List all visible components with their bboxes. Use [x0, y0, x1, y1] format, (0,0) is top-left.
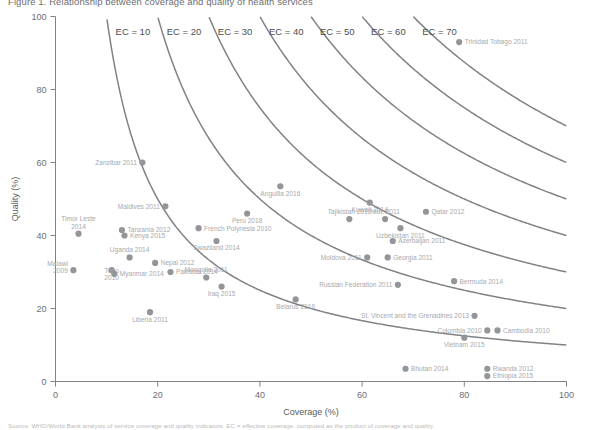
data-point-label: Myanmar 2014: [120, 270, 164, 278]
ec-curve-label-60: EC = 60: [371, 26, 406, 37]
data-point-label: Belarus 2016: [276, 303, 315, 310]
ec-curve-label-30: EC = 30: [218, 26, 253, 37]
y-tick-label: 40: [36, 231, 46, 241]
data-point-label: Bhutan 2014: [411, 365, 449, 372]
data-point-label: Swaziland 2014: [193, 244, 240, 251]
data-point[interactable]: [390, 238, 396, 244]
data-point[interactable]: [451, 278, 457, 284]
data-point[interactable]: [456, 39, 462, 45]
x-tick-label: 80: [459, 390, 469, 400]
ec-curve-label-40: EC = 40: [269, 26, 304, 37]
data-point-label: Georgia 2011: [393, 254, 433, 262]
data-point-label: Zanzibar 2011: [95, 159, 137, 166]
data-point-label: St. Vincent and the Grenadines 2013: [361, 312, 469, 319]
data-point[interactable]: [152, 260, 158, 266]
data-point[interactable]: [162, 203, 168, 209]
y-tick-label: 60: [36, 158, 46, 168]
ec-curve-label-20: EC = 20: [167, 26, 202, 37]
data-point-label: Anguilla 2016: [260, 190, 300, 198]
y-tick-label: 80: [36, 85, 46, 95]
data-point[interactable]: [382, 216, 388, 222]
axis-lines: [56, 17, 567, 382]
data-point-label: Cambodia 2010: [503, 327, 550, 334]
data-point-label: Qatar 2012: [431, 208, 464, 216]
y-tick-label: 0: [41, 377, 46, 387]
data-point[interactable]: [364, 254, 370, 260]
ec-curve-20: [158, 18, 566, 308]
data-point-label: Vietnam 2015: [444, 341, 485, 348]
data-point[interactable]: [277, 183, 283, 189]
data-point-label: Moldova 2011: [321, 254, 362, 261]
data-point-label: Niue 2011: [370, 208, 400, 215]
data-point-label: Tajikistan 2011: [328, 208, 371, 216]
data-point[interactable]: [111, 271, 117, 277]
data-point-label: Ethiopia 2015: [493, 372, 534, 380]
data-point[interactable]: [494, 327, 500, 333]
data-point-label: Colombia 2010: [437, 327, 482, 334]
data-point[interactable]: [484, 327, 490, 333]
data-point-label: French Polynesia 2010: [204, 225, 272, 233]
data-point-label: Timor Leste2014: [61, 215, 96, 230]
scatter-plot: 020406080100020406080100Coverage (%)Qual…: [0, 0, 591, 430]
data-point-label: Peru 2018: [232, 217, 263, 224]
y-tick-label: 20: [36, 304, 46, 314]
x-tick-label: 20: [153, 390, 163, 400]
y-axis-title: Quality (%): [10, 177, 20, 222]
ec-curve-40: [260, 17, 565, 235]
data-point[interactable]: [70, 267, 76, 273]
data-point[interactable]: [385, 254, 391, 260]
data-point[interactable]: [484, 373, 490, 379]
x-tick-label: 0: [53, 390, 58, 400]
data-point[interactable]: [346, 216, 352, 222]
data-point-label: Mongolia 2011: [185, 266, 228, 274]
data-point[interactable]: [293, 296, 299, 302]
y-tick-label: 100: [31, 12, 46, 22]
data-point-label: Maldives 2011: [118, 203, 160, 210]
data-point[interactable]: [484, 366, 490, 372]
ec-curve-label-10: EC = 10: [116, 26, 151, 37]
data-point[interactable]: [119, 227, 125, 233]
data-point[interactable]: [471, 313, 477, 319]
data-point[interactable]: [195, 225, 201, 231]
data-point[interactable]: [423, 209, 429, 215]
data-point-label: Kenya 2015: [130, 232, 166, 240]
data-point-label: Malawi2009: [47, 260, 68, 275]
data-point[interactable]: [126, 254, 132, 260]
data-point-label: Rwanda 2012: [493, 365, 534, 372]
data-point-label: Russian Federation 2011: [319, 281, 393, 288]
data-point-label: Liberia 2011: [132, 316, 168, 323]
data-point[interactable]: [121, 232, 127, 238]
x-tick-label: 40: [255, 390, 265, 400]
data-point[interactable]: [397, 225, 403, 231]
x-axis-title: Coverage (%): [283, 407, 339, 417]
data-point[interactable]: [139, 159, 145, 165]
data-point[interactable]: [402, 366, 408, 372]
data-point-label: Azerbaijan 2011: [398, 237, 445, 245]
data-point-label: Iraq 2015: [208, 290, 236, 298]
x-tick-label: 100: [559, 390, 574, 400]
data-point[interactable]: [461, 335, 467, 341]
x-tick-label: 60: [357, 390, 367, 400]
ec-curve-label-50: EC = 50: [320, 26, 355, 37]
data-point-label: Trinidad Tobago 2011: [465, 38, 528, 46]
data-point[interactable]: [147, 309, 153, 315]
data-point-label: Bermuda 2014: [460, 278, 504, 285]
data-point[interactable]: [244, 211, 250, 217]
data-point[interactable]: [75, 231, 81, 237]
data-point[interactable]: [213, 238, 219, 244]
ec-curve-label-70: EC = 70: [422, 26, 457, 37]
data-point[interactable]: [218, 284, 224, 290]
figure-source-note: Source: WHO/World Bank analysis of servi…: [8, 422, 434, 429]
data-point[interactable]: [395, 282, 401, 288]
data-point[interactable]: [367, 200, 373, 206]
data-point-label: Uganda 2014: [110, 246, 150, 254]
data-point[interactable]: [203, 274, 209, 280]
data-point[interactable]: [167, 269, 173, 275]
figure-container: Figure 1. Relationship between coverage …: [0, 0, 591, 430]
